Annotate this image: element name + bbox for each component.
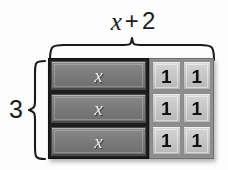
unit-tile-label: 1	[161, 131, 172, 150]
top-label-variable: x	[111, 9, 122, 34]
unit-tile-label: 1	[161, 99, 172, 118]
x-tile-column: x x x	[48, 58, 149, 159]
unit-tile[interactable]: 1	[183, 93, 212, 123]
unit-tile[interactable]: 1	[183, 126, 212, 156]
left-brace-icon	[26, 58, 48, 162]
x-tile-label: x	[94, 66, 102, 85]
unit-tile-label: 1	[191, 67, 202, 86]
unit-tile-label: 1	[191, 131, 202, 150]
x-tile-label: x	[94, 132, 102, 151]
top-label-operator: +	[125, 9, 139, 33]
algebra-tile-diagram: x + 2 3 x x x 1 1	[0, 0, 228, 170]
unit-tile-label: 1	[161, 67, 172, 86]
unit-tile[interactable]: 1	[152, 93, 181, 123]
x-tile-label: x	[94, 99, 102, 118]
x-tile[interactable]: x	[51, 94, 146, 123]
top-dimension-label: x + 2	[95, 6, 171, 36]
x-tile[interactable]: x	[51, 61, 146, 90]
tile-block: x x x 1 1 1 1 1	[48, 58, 214, 159]
unit-tile-grid: 1 1 1 1 1 1	[149, 58, 214, 159]
unit-tile-label: 1	[191, 99, 202, 118]
top-label-constant: 2	[142, 9, 155, 33]
x-tile[interactable]: x	[51, 127, 146, 156]
unit-tile[interactable]: 1	[152, 61, 181, 91]
unit-tile[interactable]: 1	[183, 61, 212, 91]
unit-tile[interactable]: 1	[152, 126, 181, 156]
side-dimension-label: 3	[5, 96, 27, 122]
